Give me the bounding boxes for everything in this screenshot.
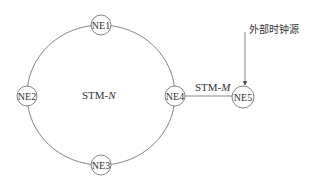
- node-ne1: NE1: [91, 15, 111, 35]
- svg-text:NE3: NE3: [92, 160, 110, 171]
- node-ne5: NE5: [232, 86, 254, 108]
- network-diagram: STM-N STM-M 外部时钟源 NE1 NE2 NE3 NE4 NE5: [0, 0, 312, 189]
- node-ne2: NE2: [17, 86, 37, 106]
- svg-text:NE2: NE2: [18, 91, 36, 102]
- svg-text:NE1: NE1: [92, 20, 110, 31]
- node-ne3: NE3: [91, 155, 111, 175]
- svg-text:NE4: NE4: [166, 91, 184, 102]
- link-label: STM-M: [195, 81, 231, 93]
- ring-label: STM-N: [82, 89, 116, 101]
- node-ne4: NE4: [165, 86, 185, 106]
- svg-text:NE5: NE5: [234, 92, 252, 103]
- clock-source-label: 外部时钟源: [249, 23, 299, 35]
